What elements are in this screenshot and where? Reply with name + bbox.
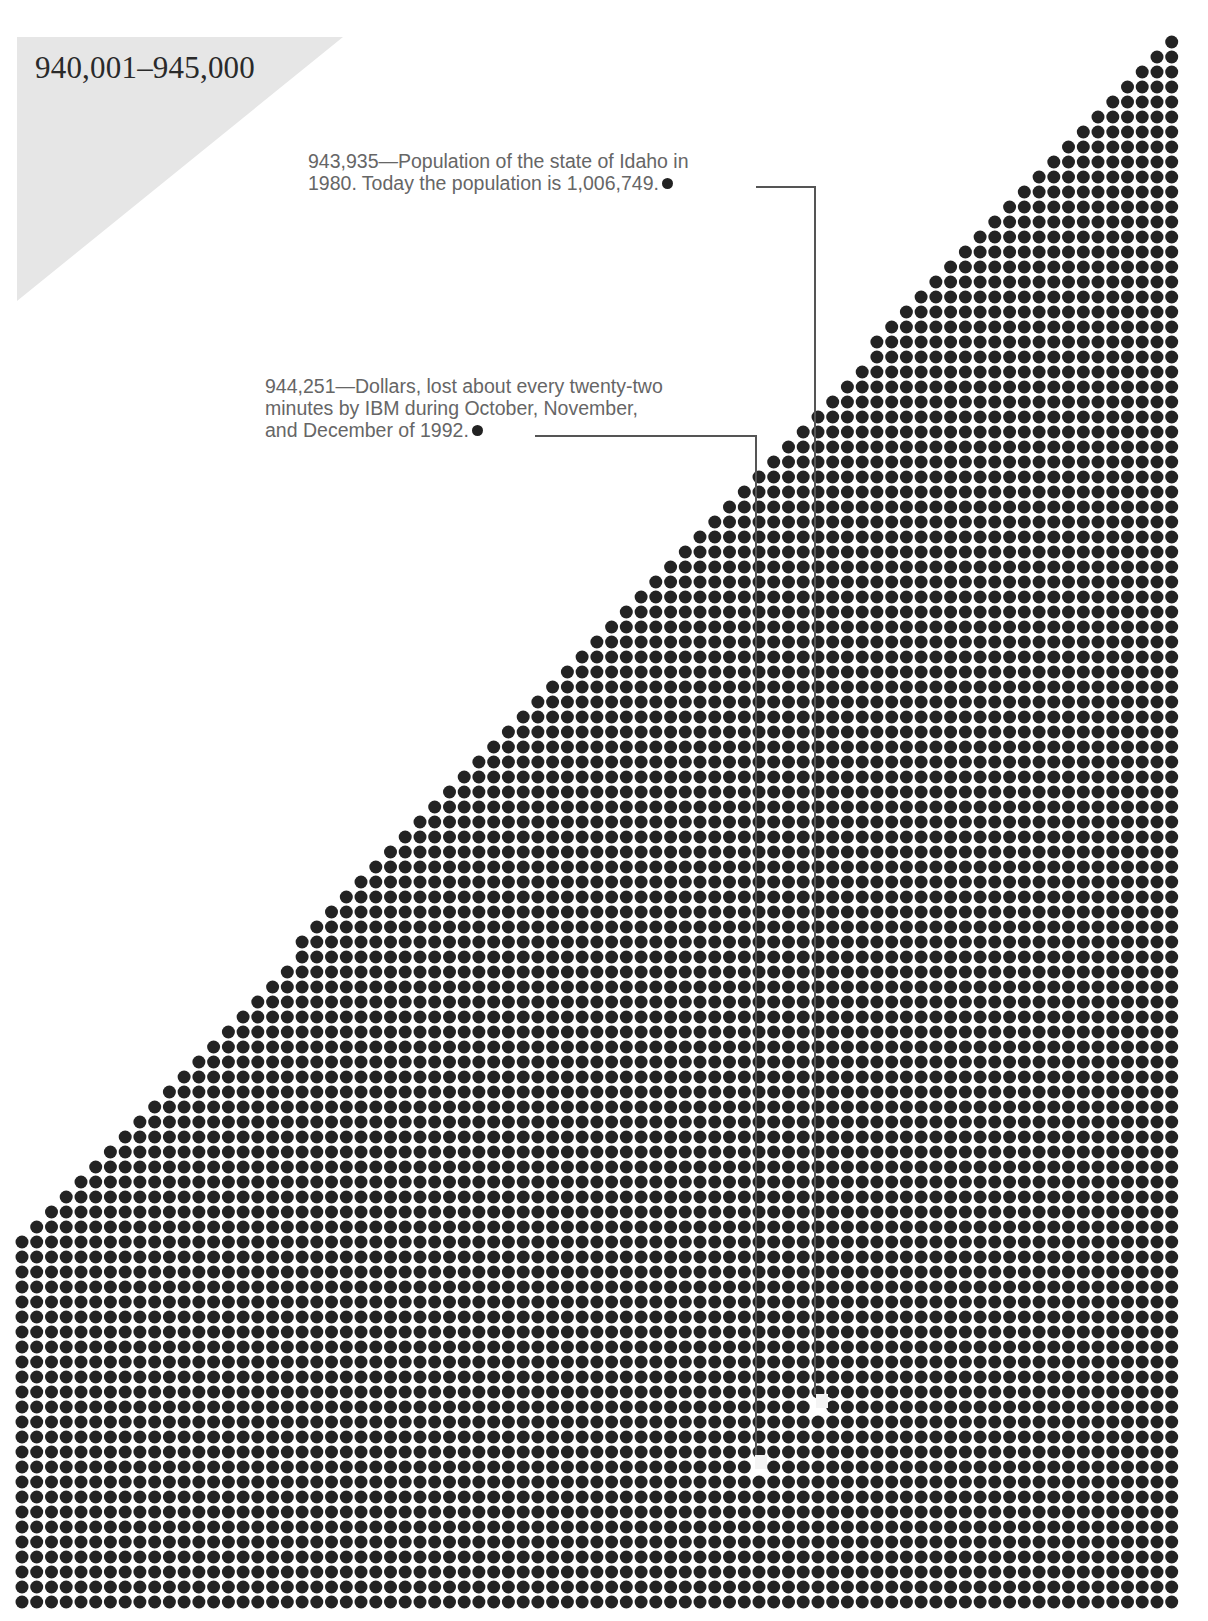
marker-dot-icon xyxy=(662,178,673,189)
annotation-line-text: and December of 1992. xyxy=(265,419,469,441)
annotation-line: minutes by IBM during October, November, xyxy=(265,397,663,419)
annotation-ibm-losses: 944,251—Dollars, lost about every twenty… xyxy=(265,375,663,441)
dot-matrix-page: 940,001–945,000 943,935—Population of th… xyxy=(0,0,1208,1621)
annotation-line: 943,935—Population of the state of Idaho… xyxy=(308,150,689,172)
annotation-idaho-population: 943,935—Population of the state of Idaho… xyxy=(308,150,689,194)
highlight-cell-2 xyxy=(755,1455,767,1469)
annotation-line: 1980. Today the population is 1,006,749. xyxy=(308,172,689,194)
marker-dot-icon xyxy=(472,425,483,436)
annotation-line-text: 1980. Today the population is 1,006,749. xyxy=(308,172,659,194)
highlight-cell-1 xyxy=(816,1394,828,1408)
annotation-line: and December of 1992. xyxy=(265,419,663,441)
annotation-line: 944,251—Dollars, lost about every twenty… xyxy=(265,375,663,397)
dot-matrix-chart xyxy=(0,0,1208,1621)
